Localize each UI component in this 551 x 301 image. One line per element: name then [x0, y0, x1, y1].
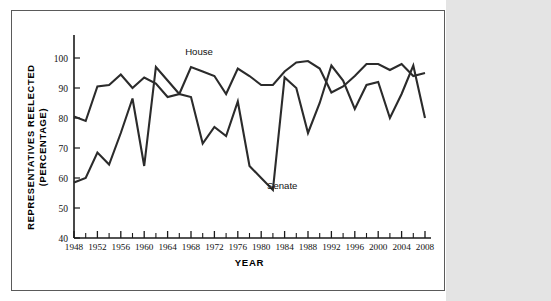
chart-axes: [74, 35, 431, 238]
x-tick-label: 2008: [416, 242, 435, 252]
series-label-house: House: [185, 46, 213, 57]
line-chart: 405060708090100 194819521956196019641968…: [12, 11, 446, 292]
y-tick-label: 100: [54, 54, 69, 64]
chart-series-lines: [74, 61, 425, 190]
y-axis-title-line2: (PERCENTAGE): [38, 108, 48, 186]
x-tick-label: 1948: [65, 242, 84, 252]
page-side-strip: [446, 0, 551, 301]
y-axis-title-line1: REPRESENTATIVES REELECTED: [26, 64, 36, 229]
x-tick-label: 1952: [88, 242, 107, 252]
x-axis-tick-labels: 1948195219561960196419681972197619801984…: [65, 242, 435, 252]
series-line-senate: [74, 66, 425, 191]
y-tick-label: 70: [59, 144, 69, 154]
x-tick-label: 1984: [275, 242, 294, 252]
x-tick-label: 1980: [252, 242, 271, 252]
x-tick-label: 2004: [392, 242, 411, 252]
x-tick-label: 1956: [112, 242, 131, 252]
x-axis-title: YEAR: [235, 257, 264, 268]
y-tick-label: 60: [59, 174, 69, 184]
x-tick-label: 1992: [322, 242, 341, 252]
x-tick-label: 2000: [369, 242, 388, 252]
x-tick-label: 1960: [135, 242, 154, 252]
x-tick-label: 1976: [229, 242, 248, 252]
chart-plot-area: 405060708090100 194819521956196019641968…: [12, 11, 446, 292]
x-tick-label: 1988: [299, 242, 318, 252]
chart-tick-marks: [74, 58, 425, 238]
series-label-senate: Senate: [267, 180, 297, 191]
y-tick-label: 80: [59, 114, 69, 124]
figure-frame: 405060708090100 194819521956196019641968…: [11, 10, 445, 291]
y-tick-label: 90: [59, 84, 69, 94]
x-tick-label: 1964: [158, 242, 177, 252]
series-line-house: [74, 61, 425, 121]
x-tick-label: 1972: [205, 242, 224, 252]
x-tick-label: 1968: [182, 242, 201, 252]
y-axis-tick-labels: 405060708090100: [54, 54, 69, 244]
x-tick-label: 1996: [346, 242, 365, 252]
y-tick-label: 50: [59, 204, 69, 214]
